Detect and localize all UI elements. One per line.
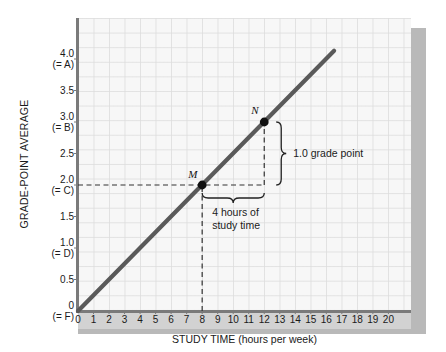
data-point-m (198, 181, 207, 190)
trend-line (78, 51, 334, 311)
point-label-m: M (188, 168, 197, 180)
annotation-run-line2: study time (212, 219, 260, 231)
chart-figure: GRADE-POINT AVERAGE STUDY TIME (hours pe… (0, 0, 446, 352)
point-label-n: N (251, 104, 258, 116)
annotation-rise-label: 1.0 grade point (293, 147, 363, 160)
brace-rise (276, 122, 286, 185)
brace-run (202, 193, 264, 203)
annotation-run-line1: 4 hours of (212, 206, 259, 218)
chart-overlay (0, 0, 446, 352)
annotation-run-label: 4 hours of study time (212, 206, 260, 232)
data-point-n (260, 118, 269, 127)
